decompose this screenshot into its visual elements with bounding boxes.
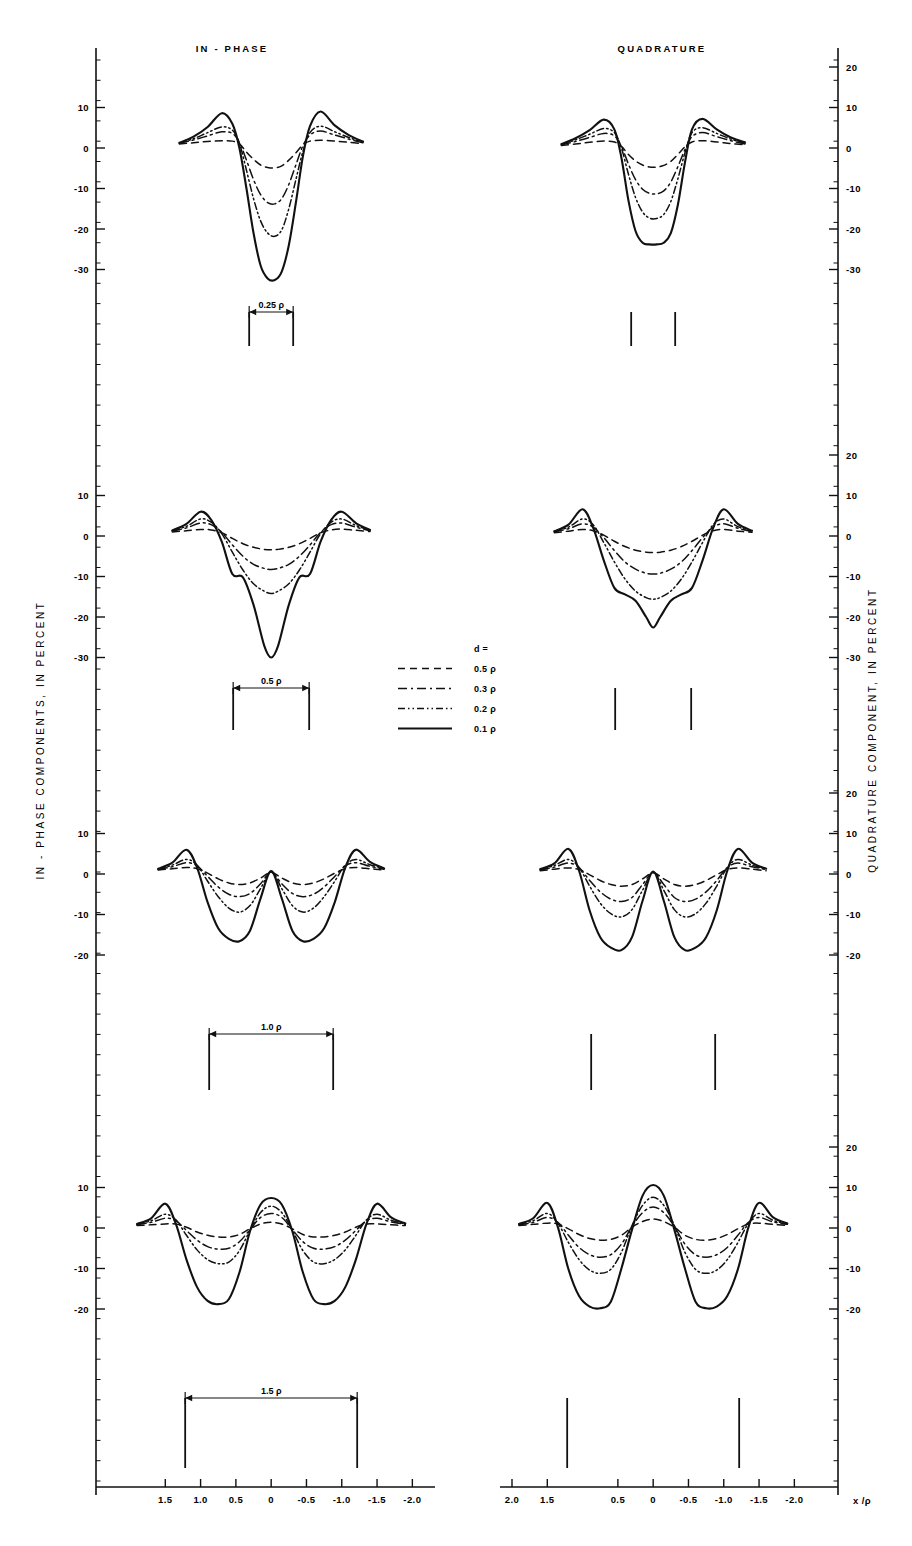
dimension-arrow xyxy=(286,309,293,315)
x-tick-label: 1.5 xyxy=(540,1494,555,1505)
y-tick-label: -20 xyxy=(846,224,861,235)
x-axis-label: x /ρ xyxy=(853,1495,871,1506)
plot-curves-row3-quadrature xyxy=(540,849,766,951)
y-tick-group-left-row3: 100-10-20 xyxy=(74,828,105,961)
x-tick-label: -1.5 xyxy=(368,1494,386,1505)
y-tick-label: -10 xyxy=(846,909,861,920)
curve-0.1-rho xyxy=(554,509,752,627)
y-tick-label: -10 xyxy=(846,571,861,582)
separation-marker-row2: 0.5 ρ xyxy=(233,676,691,730)
plot-curves-row3-in-phase xyxy=(158,850,384,942)
dimension-arrow xyxy=(233,685,240,691)
separation-marker-row1: 0.25 ρ xyxy=(249,300,675,346)
y-tick-group-right-row4: 20100-10-20 xyxy=(829,1142,861,1315)
y-tick-label: -20 xyxy=(846,1304,861,1315)
y-tick-label: 0 xyxy=(83,143,89,154)
y-tick-label: -20 xyxy=(74,612,89,623)
legend-label: 0.2 ρ xyxy=(474,704,496,714)
y-tick-group-left-row1: 100-10-20-30 xyxy=(74,102,105,275)
plot-curves-row4-quadrature xyxy=(519,1185,787,1309)
curve-0.5-rho xyxy=(554,530,752,553)
plot-curves-row4-in-phase xyxy=(137,1198,405,1304)
legend: d =0.5 ρ0.3 ρ0.2 ρ0.1 ρ xyxy=(398,644,496,734)
y-tick-label: -20 xyxy=(74,224,89,235)
panel-title-in-phase: IN - PHASE xyxy=(196,43,269,54)
dimension-arrow xyxy=(326,1031,333,1037)
y-tick-label: -10 xyxy=(74,909,89,920)
y-tick-label: 0 xyxy=(846,869,852,880)
legend-header: d = xyxy=(474,644,488,654)
x-tick-label: 1.0 xyxy=(193,1494,207,1505)
y-tick-label: 10 xyxy=(846,828,857,839)
x-tick-label: 0 xyxy=(650,1494,656,1505)
y-tick-label: -10 xyxy=(74,183,89,194)
x-tick-label: -2.0 xyxy=(785,1494,803,1505)
y-tick-label: -10 xyxy=(846,1263,861,1274)
y-tick-label: 10 xyxy=(846,102,857,113)
x-tick-group-right: 2.01.50.50-0.5-1.0-1.5-2.0 xyxy=(505,1479,804,1505)
x-tick-label: -1.5 xyxy=(750,1494,768,1505)
curve-0.1-rho xyxy=(519,1185,787,1309)
y-tick-label: 0 xyxy=(846,531,852,542)
left-y-axis-label: IN - PHASE COMPONENTS, IN PERCENT xyxy=(35,600,46,879)
y-tick-label: 10 xyxy=(78,102,89,113)
dimension-arrow xyxy=(209,1031,216,1037)
y-tick-label: 0 xyxy=(846,143,852,154)
x-tick-label: 0.5 xyxy=(229,1494,244,1505)
y-tick-label: 20 xyxy=(846,1142,857,1153)
legend-label: 0.1 ρ xyxy=(474,724,496,734)
y-tick-label: -20 xyxy=(846,950,861,961)
y-tick-label: -10 xyxy=(846,183,861,194)
y-tick-label: -30 xyxy=(846,652,861,663)
dimension-arrow xyxy=(185,1395,192,1401)
y-tick-label: 10 xyxy=(78,828,89,839)
x-tick-label: 0 xyxy=(268,1494,274,1505)
y-tick-label: -10 xyxy=(74,1263,89,1274)
curve-0.2-rho xyxy=(137,1206,405,1264)
y-tick-label: 10 xyxy=(78,1182,89,1193)
y-tick-group-left-row2: 100-10-20-30 xyxy=(74,490,105,663)
y-tick-label: 0 xyxy=(846,1223,852,1234)
plot-curves-row1-quadrature xyxy=(561,119,745,245)
x-tick-label: 2.0 xyxy=(505,1494,519,1505)
figure-canvas: IN - PHASEQUADRATUREIN - PHASE COMPONENT… xyxy=(0,0,912,1546)
legend-label: 0.3 ρ xyxy=(474,684,496,694)
y-tick-label: 20 xyxy=(846,62,857,73)
curve-0.2-rho xyxy=(554,519,752,599)
x-tick-label: 1.5 xyxy=(158,1494,173,1505)
y-tick-label: 10 xyxy=(78,490,89,501)
curve-0.5-rho xyxy=(561,141,745,168)
separation-marker-row4: 1.5 ρ xyxy=(185,1386,739,1468)
x-tick-group-left: 1.51.00.50-0.5-1.0-1.5-2.0 xyxy=(158,1479,421,1505)
plot-curves-row2-quadrature xyxy=(554,509,752,627)
y-tick-label: -10 xyxy=(74,571,89,582)
y-tick-label: 0 xyxy=(83,531,89,542)
y-tick-label: -30 xyxy=(846,264,861,275)
x-tick-label: -1.0 xyxy=(333,1494,351,1505)
dimension-arrow xyxy=(249,309,256,315)
plot-curves-row1-in-phase xyxy=(179,112,363,281)
panel-title-quadrature: QUADRATURE xyxy=(618,43,707,54)
y-tick-label: 20 xyxy=(846,450,857,461)
right-y-axis-label: QUADRATURE COMPONENT, IN PERCENT xyxy=(867,587,878,872)
curve-0.5-rho xyxy=(158,868,384,885)
curve-0.5-rho xyxy=(172,529,370,550)
separation-label: 1.5 ρ xyxy=(261,1386,282,1396)
y-tick-label: 0 xyxy=(83,1223,89,1234)
dimension-arrow xyxy=(302,685,309,691)
curve-0.3-rho xyxy=(554,524,752,574)
separation-marker-row3: 1.0 ρ xyxy=(209,1022,715,1090)
y-tick-label: 10 xyxy=(846,490,857,501)
curve-0.1-rho xyxy=(179,112,363,281)
x-tick-label: -0.5 xyxy=(679,1494,697,1505)
y-tick-label: 20 xyxy=(846,788,857,799)
y-tick-label: -20 xyxy=(74,1304,89,1315)
y-tick-group-right-row3: 20100-10-20 xyxy=(829,788,861,961)
x-tick-label: -1.0 xyxy=(715,1494,733,1505)
separation-label: 1.0 ρ xyxy=(261,1022,282,1032)
y-tick-label: 0 xyxy=(83,869,89,880)
y-tick-label: -30 xyxy=(74,652,89,663)
y-tick-label: -20 xyxy=(74,950,89,961)
y-tick-label: -30 xyxy=(74,264,89,275)
x-tick-label: -2.0 xyxy=(403,1494,421,1505)
